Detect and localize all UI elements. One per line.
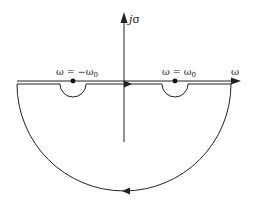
singularity-dot-positive (173, 79, 178, 84)
vertical-axis-arrow-icon (121, 12, 128, 23)
singularity-dot-negative (71, 79, 76, 84)
vertical-axis (121, 12, 128, 142)
vertical-axis-label: jσ (126, 13, 140, 26)
horizontal-axis-arrow-icon (231, 78, 241, 85)
singularity-label-negative: ω = −ω0 (56, 66, 98, 79)
singularity-label-positive: ω = ω0 (162, 66, 196, 79)
contour-diagram: jσ ω ω = −ω0 ω = ω0 (0, 0, 253, 207)
horizontal-axis-label: ω (231, 66, 239, 77)
contour-direction-arrow-right-icon (124, 81, 132, 88)
contour-direction-arrow-left-icon (122, 188, 130, 195)
